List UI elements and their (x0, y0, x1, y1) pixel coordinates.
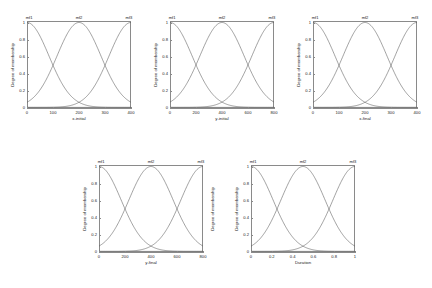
x-tick-label: 0.4 (290, 255, 296, 260)
x-tick-label: 0 (98, 255, 100, 260)
curve-mf1 (251, 167, 355, 252)
x-tick-label: 200 (76, 111, 83, 116)
x-tick-mark (339, 107, 340, 109)
x-tick-label: 1 (354, 255, 356, 260)
y-axis-label: Degree of membership (234, 187, 239, 231)
mf-label-mf3: mf3 (350, 159, 357, 164)
membership-curves (313, 21, 417, 109)
x-tick-label: 100 (336, 111, 343, 116)
x-tick-mark (355, 251, 356, 253)
y-tick-mark (27, 40, 29, 41)
y-tick-label: 0 (302, 105, 311, 110)
x-tick-label: 300 (388, 111, 395, 116)
y-tick-label: 0.8 (240, 181, 249, 186)
membership-curves (99, 165, 203, 253)
x-tick-mark (417, 107, 418, 109)
x-tick-mark (53, 107, 54, 109)
x-tick-mark (272, 251, 273, 253)
y-tick-label: 0.8 (16, 37, 25, 42)
x-tick-label: 200 (193, 111, 200, 116)
y-tick-label: 0.4 (88, 215, 97, 220)
y-tick-label: 0.2 (302, 88, 311, 93)
membership-curves (170, 21, 274, 109)
y-tick-label: 0.6 (88, 198, 97, 203)
y-tick-mark (27, 57, 29, 58)
mf-label-mf3: mf3 (412, 15, 419, 20)
curve-mf1 (99, 167, 203, 252)
mf-label-mf1: mf1 (250, 159, 257, 164)
y-tick-mark (251, 201, 253, 202)
y-tick-label: 0.4 (302, 71, 311, 76)
x-tick-label: 0 (169, 111, 171, 116)
y-axis-label: Degree of membership (82, 187, 87, 231)
y-axis-label: Degree of membership (296, 43, 301, 87)
y-tick-label: 0.2 (240, 232, 249, 237)
x-axis-label: x-initial (72, 116, 85, 121)
y-tick-mark (170, 91, 172, 92)
x-tick-mark (151, 251, 152, 253)
y-tick-mark (251, 218, 253, 219)
x-tick-mark (334, 251, 335, 253)
y-tick-mark (313, 74, 315, 75)
x-axis-label: y-initial (215, 116, 228, 121)
y-tick-label: 1 (88, 164, 97, 169)
y-tick-label: 0.6 (240, 198, 249, 203)
panel-x-initial[interactable]: mf1mf2mf310.80.60.40.200100200300400x-in… (27, 21, 131, 109)
x-tick-label: 0.8 (331, 255, 337, 260)
x-tick-mark (131, 107, 132, 109)
curve-mf3 (170, 23, 274, 108)
y-tick-mark (99, 218, 101, 219)
panel-duration[interactable]: mf1mf2mf310.80.60.40.2000.20.40.60.81Dur… (251, 165, 355, 253)
x-tick-mark (293, 251, 294, 253)
y-tick-mark (170, 57, 172, 58)
y-tick-label: 0 (159, 105, 168, 110)
y-tick-label: 0.6 (16, 54, 25, 59)
x-axis-label: Duration (295, 260, 311, 265)
panel-y-final[interactable]: mf1mf2mf310.80.60.40.200200400600800y-fi… (99, 165, 203, 253)
y-tick-mark (99, 235, 101, 236)
panel-x-final[interactable]: mf1mf2mf310.80.60.40.200100200300400x-fi… (313, 21, 417, 109)
x-tick-mark (203, 251, 204, 253)
y-tick-mark (251, 167, 253, 168)
x-tick-label: 800 (200, 255, 207, 260)
y-tick-label: 1 (16, 20, 25, 25)
mf-label-mf3: mf3 (198, 159, 205, 164)
mf-label-mf1: mf1 (312, 15, 319, 20)
x-axis-label: x-final (359, 116, 370, 121)
mf-label-mf3: mf3 (126, 15, 133, 20)
y-axis-label: Degree of membership (10, 43, 15, 87)
y-tick-label: 0 (88, 249, 97, 254)
curve-mf3 (251, 167, 355, 252)
x-tick-label: 300 (102, 111, 109, 116)
y-tick-mark (251, 235, 253, 236)
y-tick-mark (170, 74, 172, 75)
curve-mf1 (170, 23, 274, 108)
y-tick-mark (251, 184, 253, 185)
x-tick-mark (251, 251, 252, 253)
panel-y-initial[interactable]: mf1mf2mf310.80.60.40.200200400600800y-in… (170, 21, 274, 109)
curve-mf1 (313, 23, 417, 108)
curve-mf2 (170, 23, 274, 103)
x-axis-label: y-final (145, 260, 156, 265)
mf-label-mf3: mf3 (269, 15, 276, 20)
curve-mf2 (27, 23, 131, 103)
x-tick-label: 200 (122, 255, 129, 260)
y-tick-mark (313, 57, 315, 58)
x-tick-mark (248, 107, 249, 109)
y-tick-label: 0 (16, 105, 25, 110)
y-tick-mark (27, 91, 29, 92)
y-axis-label-right: Degree of membership (210, 187, 215, 231)
y-tick-label: 0.8 (88, 181, 97, 186)
y-tick-label: 0.4 (16, 71, 25, 76)
x-tick-mark (27, 107, 28, 109)
curve-mf3 (99, 167, 203, 252)
mf-label-mf2: mf2 (219, 15, 226, 20)
x-tick-label: 100 (50, 111, 57, 116)
y-tick-label: 0.6 (302, 54, 311, 59)
x-tick-label: 400 (128, 111, 135, 116)
x-tick-mark (177, 251, 178, 253)
x-tick-mark (99, 251, 100, 253)
x-tick-mark (274, 107, 275, 109)
y-tick-label: 0.6 (159, 54, 168, 59)
x-tick-mark (365, 107, 366, 109)
